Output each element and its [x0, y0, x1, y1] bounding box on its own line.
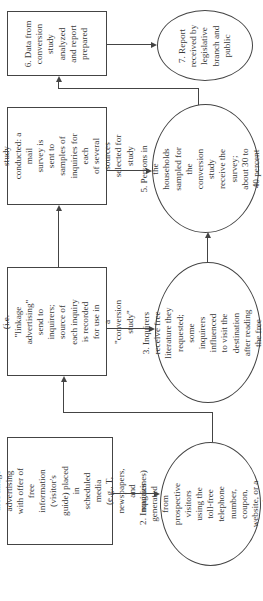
edge-6-to-7 — [107, 44, 151, 45]
arrowhead-icon — [154, 491, 160, 497]
node-3-inquirers-receive: 3. Inquirers receive free literature the… — [155, 262, 261, 403]
node-6-label: 6. Data from conversion study analyzed a… — [23, 19, 90, 68]
edge-3b-to-5 — [207, 238, 208, 262]
edge-1-to-2 — [113, 493, 154, 494]
arrowhead-icon — [151, 42, 157, 48]
node-5-label: 5. Persons in the households sampled for… — [138, 142, 263, 195]
node-3a-label: 3. Free literature (i.e. "linkage advert… — [0, 297, 135, 346]
node-3-free-literature: 3. Free literature (i.e. "linkage advert… — [7, 267, 107, 376]
arrowhead-icon — [61, 376, 67, 382]
node-4-conversion-study: 4. Conversion study conducted: a mail su… — [7, 107, 107, 205]
edge-3a-to-3b — [107, 328, 149, 329]
node-2-label: 2. Inquiries generated from prospective … — [138, 479, 263, 529]
node-4-label: 4. Conversion study conducted: a mail su… — [0, 132, 135, 181]
arrowhead-icon — [146, 168, 152, 174]
edge-2-to-3a-seg1 — [212, 412, 213, 442]
node-6-data-analyzed: 6. Data from conversion study analyzed a… — [7, 11, 107, 76]
arrowhead-icon — [56, 205, 62, 211]
edge-4-to-5 — [107, 170, 146, 171]
edge-2-to-3a-seg3 — [63, 382, 64, 413]
node-7-label: 7. Report received by legislative branch… — [177, 24, 233, 67]
arrowhead-icon — [205, 232, 211, 238]
node-2-inquiries-generated: 2. Inquiries generated from prospective … — [160, 442, 261, 566]
edge-5-to-6-seg2 — [58, 88, 199, 89]
edge-5-to-6-seg1 — [198, 88, 199, 105]
node-3b-label: 3. Inquirers receive free literature the… — [141, 307, 263, 359]
node-1-label: 1. Destination marketer uses image adver… — [0, 465, 150, 517]
arrowhead-icon — [56, 76, 62, 82]
arrowhead-icon — [149, 326, 155, 332]
node-1-destination-marketer: 1. Destination marketer uses image adver… — [7, 437, 113, 545]
edge-3a-to-4 — [58, 211, 59, 267]
node-7-report-received: 7. Report received by legislative branch… — [157, 10, 253, 81]
node-5-persons-respond: 5. Persons in the households sampled for… — [152, 104, 259, 233]
edge-5-to-6-seg3 — [58, 82, 59, 89]
edge-2-to-3a-seg2 — [63, 412, 213, 413]
